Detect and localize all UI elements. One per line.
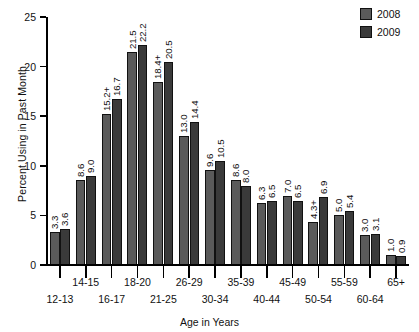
bar-2008-45-49 [283,196,293,265]
bar-value-label: 8.6 [76,164,85,177]
bar-value-label: 3.1 [371,218,380,231]
legend: 2008 2009 [360,6,400,42]
bar-value-label: 20.5 [164,40,173,58]
y-axis-tick-label: 5 [0,210,36,220]
bar-2009-45-49 [293,201,303,265]
bar-2009-50-54 [319,197,329,265]
bar-2008-12-13 [50,232,60,265]
bar-value-label: 6.5 [293,184,302,197]
bar-2009-18-20 [138,45,148,265]
x-axis-label-14-15: 14-15 [72,277,99,288]
x-axis-label-21-25: 21-25 [150,294,177,305]
x-axis-label-65+: 65+ [387,277,405,288]
y-axis-tick-label: 20 [0,62,36,72]
bar-value-label: 9.0 [86,160,95,173]
bar-value-label: 5.4 [345,195,354,208]
x-axis-label-60-64: 60-64 [357,294,384,305]
bar-group: 7.06.5 [280,17,306,265]
x-axis-tick [318,266,320,278]
y-axis-tick-label: 0 [0,260,36,270]
bar-2008-60-64 [360,235,370,265]
bar-2009-14-15 [86,176,96,265]
bar-group: 15.2+16.7 [99,17,125,265]
bar-value-label: 16.7 [112,78,121,96]
y-axis-tick-label: 15 [0,111,36,121]
y-axis-tick [40,66,46,68]
bar-value-label: 14.4 [190,101,199,119]
y-axis-tick-label: 25 [0,12,36,22]
bar-value-label: 1.0 [386,239,395,252]
bar-group: 8.69.0 [73,17,99,265]
bar-2009-12-13 [60,229,70,265]
legend-label-2008: 2008 [377,9,400,20]
bar-2008-40-44 [257,203,267,265]
y-axis-tick [40,165,46,167]
legend-label-2009: 2009 [377,27,400,38]
x-axis-label-40-44: 40-44 [253,294,280,305]
x-axis-tick [59,266,61,278]
bar-value-label: 3.6 [60,213,69,226]
bar-value-label: 8.6 [231,164,240,177]
x-axis-line [46,264,409,266]
bar-2008-50-54 [308,222,318,265]
bar-group: 21.522.2 [125,17,151,265]
x-axis-title: Age in Years [0,316,419,328]
x-axis-label-55-59: 55-59 [331,277,358,288]
bar-2009-26-29 [190,122,200,265]
bar-group: 8.68.0 [228,17,254,265]
bar-value-label: 13.0 [179,115,188,133]
bar-group: 4.3+6.9 [306,17,332,265]
legend-item-2008: 2008 [360,6,400,22]
y-axis-tick [40,16,46,18]
x-axis-label-30-34: 30-34 [202,294,229,305]
bar-2008-35-39 [231,180,241,265]
bar-group: 9.610.5 [202,17,228,265]
bar-value-label: 22.2 [138,23,147,41]
y-axis-tick [40,215,46,217]
bar-value-label: 4.3+ [309,201,318,220]
x-axis-tick [163,266,165,278]
legend-swatch-icon-2009 [360,26,372,38]
bar-group: 1.00.9 [383,17,409,265]
bar-2008-55-59 [334,215,344,265]
x-axis-label-12-13: 12-13 [46,294,73,305]
bar-group: 5.05.4 [331,17,357,265]
x-axis-tick [214,266,216,278]
bar-value-label: 15.2+ [102,87,111,111]
x-axis-label-45-49: 45-49 [279,277,306,288]
x-axis-label-16-17: 16-17 [98,294,125,305]
bar-value-label: 3.0 [360,219,369,232]
legend-item-2009: 2009 [360,24,400,40]
bar-group: 18.4+20.5 [150,17,176,265]
plot-area: 3.33.68.69.015.2+16.721.522.218.4+20.513… [47,17,409,265]
bar-2009-55-59 [345,211,355,265]
bar-chart: Percent Using in Past Month 0510152025 3… [0,0,419,332]
bar-value-label: 21.5 [128,30,137,48]
bar-group: 3.03.1 [357,17,383,265]
bar-group: 3.33.6 [47,17,73,265]
bar-2009-35-39 [241,186,251,265]
bar-value-label: 7.0 [283,179,292,192]
bar-2008-18-20 [127,52,137,265]
y-axis-tick [40,115,46,117]
bar-value-label: 6.9 [319,180,328,193]
x-axis-label-18-20: 18-20 [124,277,151,288]
bar-2008-30-34 [205,170,215,265]
legend-swatch-icon-2008 [360,8,372,20]
bar-2008-26-29 [179,136,189,265]
bar-value-label: 3.3 [50,216,59,229]
bar-2008-16-17 [102,114,112,265]
x-axis-label-50-54: 50-54 [305,294,332,305]
bar-2009-30-34 [215,161,225,265]
bar-group: 6.36.5 [254,17,280,265]
bar-value-label: 8.0 [241,169,250,182]
bar-2009-16-17 [112,99,122,265]
bar-2009-21-25 [164,62,174,265]
bar-value-label: 10.5 [216,139,225,157]
x-axis-tick [111,266,113,278]
y-axis-tick-label: 10 [0,161,36,171]
bar-2009-60-64 [371,234,381,265]
bar-2008-14-15 [76,180,86,265]
x-axis-tick [369,266,371,278]
bar-group: 13.014.4 [176,17,202,265]
